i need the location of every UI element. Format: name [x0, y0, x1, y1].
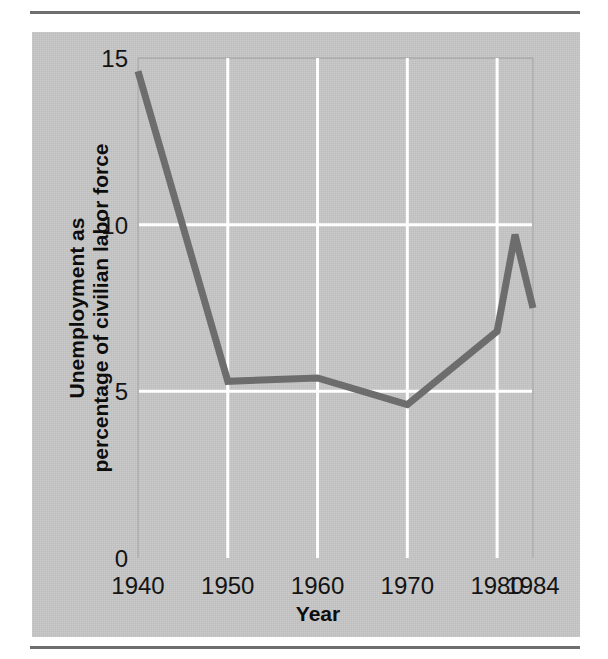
- x-tick-label-1984: 1984: [506, 572, 559, 599]
- y-tick-label-0: 0: [115, 545, 128, 572]
- plot-frame: [138, 58, 533, 558]
- x-tick-label-1960: 1960: [291, 572, 344, 599]
- x-tick-label-1950: 1950: [201, 572, 254, 599]
- y-axis-title-line-2: percentage of civilian labor force: [89, 143, 112, 472]
- data-line-unemployment: [138, 71, 533, 404]
- x-tick-label-1940: 1940: [111, 572, 164, 599]
- x-tick-label-1970: 1970: [381, 572, 434, 599]
- unemployment-line-chart: 15 10 5 0 1940 1950 1960 1970 1980 1984 …: [0, 0, 608, 659]
- x-axis-tick-labels: 1940 1950 1960 1970 1980 1984: [111, 572, 559, 599]
- y-tick-label-15: 15: [101, 45, 128, 72]
- y-axis-title-line-1: Unemployment as: [65, 218, 88, 399]
- figure-page: { "figure": { "panel_color": "#c7c7c7", …: [0, 0, 608, 659]
- gridlines: [138, 58, 533, 558]
- y-tick-label-5: 5: [115, 378, 128, 405]
- x-axis-title: Year: [296, 602, 340, 625]
- y-axis-title: Unemployment as percentage of civilian l…: [65, 143, 112, 472]
